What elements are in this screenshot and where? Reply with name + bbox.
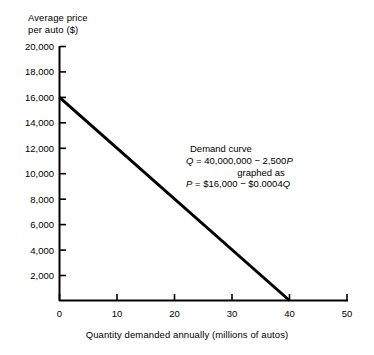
equation-p-body: = $16,000 − $0.0004 — [192, 178, 282, 189]
y-tick-label: 10,000 — [25, 168, 54, 179]
x-tick-label: 30 — [227, 308, 238, 319]
variable-p: P — [286, 155, 292, 166]
annotation-equation-q: Q = 40,000,000 − 2,500P — [186, 155, 336, 167]
y-axis-tick-labels: 20,000 18,000 16,000 14,000 12,000 10,00… — [25, 41, 54, 281]
equation-q-body: = 40,000,000 − 2,500 — [193, 155, 286, 166]
annotation-equation-p: P = $16,000 − $0.0004Q — [186, 178, 336, 190]
demand-curve-figure: Average price per auto ($) — [0, 0, 374, 355]
y-axis-ticks — [60, 47, 66, 276]
y-tick-label: 12,000 — [25, 143, 54, 154]
y-tick-label: 16,000 — [25, 92, 54, 103]
y-tick-label: 18,000 — [25, 66, 54, 77]
x-axis-tick-labels: 0 10 20 30 40 50 — [57, 308, 352, 319]
demand-curve-line — [60, 97, 290, 300]
x-tick-label: 40 — [284, 308, 295, 319]
x-axis-title: Quantity demanded annually (millions of … — [0, 329, 374, 340]
y-tick-label: 14,000 — [25, 117, 54, 128]
x-tick-label: 50 — [342, 308, 353, 319]
x-tick-label: 10 — [112, 308, 123, 319]
annotation-connector: graphed as — [186, 167, 336, 179]
x-tick-label: 20 — [169, 308, 180, 319]
demand-curve-annotation: Demand curve Q = 40,000,000 − 2,500P gra… — [186, 143, 336, 190]
variable-q: Q — [283, 178, 290, 189]
x-tick-label: 0 — [57, 308, 62, 319]
x-axis-ticks — [60, 294, 348, 300]
y-tick-label: 6,000 — [30, 219, 54, 230]
y-tick-label: 8,000 — [30, 194, 54, 205]
y-tick-label: 4,000 — [30, 245, 54, 256]
y-tick-label: 2,000 — [30, 270, 54, 281]
y-tick-label: 20,000 — [25, 41, 54, 52]
annotation-title: Demand curve — [186, 143, 336, 155]
